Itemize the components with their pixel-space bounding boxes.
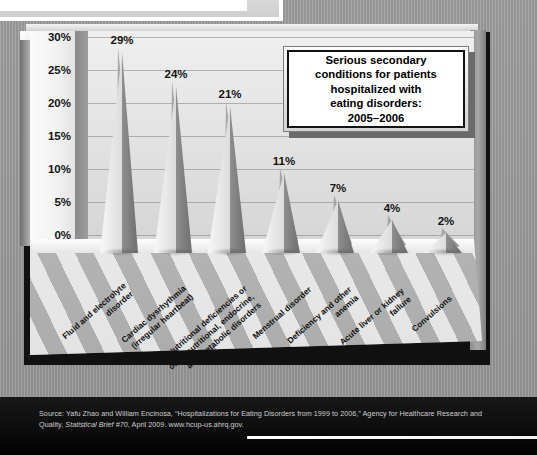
- bar-value-label: 11%: [273, 155, 295, 167]
- footer-accent-rule: [247, 436, 537, 439]
- y-tick-label: 15%: [29, 130, 71, 142]
- bar-face-right: [122, 52, 138, 253]
- bar-pyramid: [260, 173, 308, 253]
- chart-title-box: Serious secondaryconditions for patients…: [283, 46, 469, 132]
- source-italic: Statistical Brief #70: [65, 420, 128, 429]
- chart-panel: 30% 25% 20% 15% 10% 5% 0% 29%: [18, 24, 496, 365]
- bar-value-label: 24%: [164, 68, 187, 80]
- bar-1: 24%: [152, 31, 200, 253]
- bar-value-label: 21%: [218, 88, 241, 100]
- bar-shadow: [372, 248, 412, 256]
- y-tick-label: 5%: [29, 196, 71, 208]
- bar-shadow: [426, 248, 466, 256]
- chart-title-box-frame: Serious secondaryconditions for patients…: [283, 46, 469, 132]
- poster-canvas: 30% 25% 20% 15% 10% 5% 0% 29%: [0, 0, 537, 455]
- bar-pyramid: [152, 86, 200, 253]
- header-band: [0, 0, 283, 21]
- bar-value-label: 2%: [438, 215, 455, 227]
- bar-pyramid: [206, 106, 254, 253]
- y-tick-label: 20%: [29, 97, 71, 109]
- chart-title-text: Serious secondaryconditions for patients…: [287, 50, 465, 128]
- bar-pyramid: [98, 52, 146, 253]
- bar-value-label: 4%: [384, 202, 401, 214]
- source-suffix: , April 2009. www.hcup-us.ahrq.gov.: [128, 420, 244, 429]
- bar-face-left: [262, 173, 284, 253]
- y-axis: 30% 25% 20% 15% 10% 5% 0%: [30, 31, 76, 239]
- y-tick-label: 10%: [29, 163, 71, 175]
- y-axis-depth-face: [76, 31, 88, 239]
- bar-shadow: [156, 248, 196, 256]
- bar-face-right: [176, 86, 192, 253]
- header-band-highlight: [0, 0, 247, 11]
- floor-stripes: [30, 239, 482, 355]
- bar-shadow: [210, 248, 250, 256]
- bar-face-left: [316, 200, 338, 253]
- bar-value-label: 7%: [330, 182, 347, 194]
- y-tick-label: 30%: [29, 31, 71, 43]
- bar-face-right: [338, 200, 354, 253]
- bar-2: 21%: [206, 31, 254, 253]
- bar-shadow: [264, 248, 304, 256]
- source-citation: Source: Yafu Zhao and William Encinosa, …: [39, 408, 499, 430]
- bar-pyramid: [422, 233, 470, 253]
- bar-pyramid: [314, 200, 362, 253]
- chart-floor: [30, 239, 482, 355]
- bar-shadow: [318, 248, 358, 256]
- y-tick-label: 25%: [29, 64, 71, 76]
- bar-shadow: [102, 248, 142, 256]
- bar-pyramid: [368, 220, 416, 253]
- bar-value-label: 29%: [110, 34, 133, 46]
- bar-face-right: [230, 106, 246, 253]
- bar-0: 29%: [98, 31, 146, 253]
